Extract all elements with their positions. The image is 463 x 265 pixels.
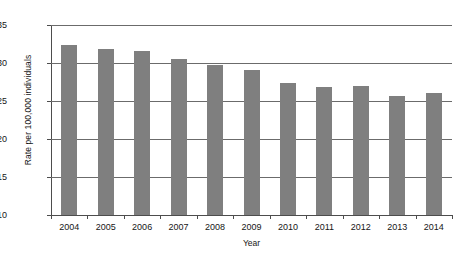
x-tick-mark	[452, 215, 453, 219]
bar	[134, 51, 150, 215]
bar	[280, 83, 296, 215]
x-tick-label: 2011	[304, 222, 344, 232]
bar	[98, 49, 114, 215]
gridline	[51, 25, 452, 26]
y-tick-label: 30	[0, 58, 7, 68]
x-tick-label: 2006	[122, 222, 162, 232]
x-tick-label: 2007	[159, 222, 199, 232]
y-tick-label: 10	[0, 210, 7, 220]
x-tick-label: 2005	[86, 222, 126, 232]
x-tick-mark	[87, 215, 88, 219]
x-tick-mark	[51, 215, 52, 219]
x-tick-mark	[379, 215, 380, 219]
x-tick-mark	[124, 215, 125, 219]
x-tick-label: 2008	[195, 222, 235, 232]
y-tick-mark	[47, 139, 51, 140]
x-tick-label: 2014	[414, 222, 454, 232]
gridline	[51, 215, 452, 216]
x-tick-label: 2010	[268, 222, 308, 232]
y-tick-mark	[47, 177, 51, 178]
x-tick-mark	[343, 215, 344, 219]
x-tick-label: 2013	[377, 222, 417, 232]
bar-chart: Rate per 100,000 individuals 20042005200…	[0, 0, 463, 265]
y-tick-mark	[47, 63, 51, 64]
x-tick-mark	[416, 215, 417, 219]
x-tick-label: 2004	[49, 222, 89, 232]
bar	[316, 87, 332, 215]
y-axis-title: Rate per 100,000 individuals	[23, 25, 33, 195]
bar	[426, 93, 442, 215]
x-tick-mark	[160, 215, 161, 219]
plot-area: 2004200520062007200820092010201120122013…	[51, 25, 452, 215]
x-tick-mark	[233, 215, 234, 219]
bar	[353, 86, 369, 215]
bar	[389, 96, 405, 215]
y-tick-label: 25	[0, 96, 7, 106]
x-tick-mark	[197, 215, 198, 219]
y-tick-label: 35	[0, 20, 7, 30]
y-tick-label: 20	[0, 134, 7, 144]
x-tick-mark	[270, 215, 271, 219]
x-axis-title: Year	[51, 238, 452, 248]
y-tick-mark	[47, 25, 51, 26]
bar	[244, 70, 260, 215]
bar	[171, 59, 187, 215]
bar	[61, 45, 77, 215]
y-tick-mark	[47, 101, 51, 102]
x-tick-label: 2012	[341, 222, 381, 232]
y-tick-label: 15	[0, 172, 7, 182]
x-tick-label: 2009	[232, 222, 272, 232]
x-tick-mark	[306, 215, 307, 219]
bar	[207, 65, 223, 215]
y-axis-line	[51, 25, 52, 215]
